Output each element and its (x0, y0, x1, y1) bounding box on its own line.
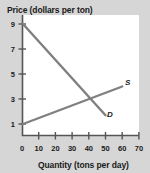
x-tick-label-10: 10 (32, 144, 46, 153)
x-tick-label-20: 20 (48, 144, 62, 153)
supply-curve-label: S (125, 78, 130, 87)
y-tick-label-7: 7 (3, 45, 15, 54)
x-tick-label-40: 40 (82, 144, 96, 153)
origin-label: 0 (15, 144, 29, 153)
x-tick-label-60: 60 (115, 144, 129, 153)
y-tick-label-3: 3 (3, 95, 15, 104)
y-tick-label-9: 9 (3, 20, 15, 29)
supply-demand-chart: Price (dollars per ton) Quantity (tons p… (0, 0, 150, 173)
x-tick-label-70: 70 (132, 144, 146, 153)
y-tick-label-1: 1 (3, 120, 15, 129)
demand-curve-label: D (107, 110, 113, 119)
x-tick-label-50: 50 (99, 144, 113, 153)
x-tick-label-30: 30 (65, 144, 79, 153)
demand-curve (23, 24, 106, 115)
y-tick-label-5: 5 (3, 70, 15, 79)
